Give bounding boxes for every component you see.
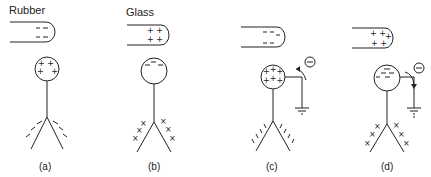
- svg-text:+ +: + +: [370, 29, 386, 38]
- panel-a: Rubber + + + + (a): [9, 4, 67, 172]
- svg-text:×: ×: [369, 130, 376, 139]
- panel-b: Glass + + + + × × × × × × (b): [126, 6, 176, 172]
- electroscope-diagram: Rubber + + + + (a) Glass + +: [0, 0, 431, 177]
- caption-a: (a): [39, 161, 51, 172]
- svg-text:+ +: + +: [147, 26, 163, 35]
- caption-b: (b): [148, 161, 160, 172]
- svg-text:×: ×: [393, 121, 400, 130]
- svg-text:×: ×: [398, 130, 405, 139]
- svg-text:+++: +++: [263, 74, 283, 85]
- electroscope-a: + + + +: [26, 57, 67, 149]
- caption-c: (c): [266, 161, 278, 172]
- svg-text:+ +: + +: [37, 67, 58, 76]
- electroscope-b: × × × × × ×: [132, 58, 176, 152]
- svg-text:×: ×: [364, 139, 371, 148]
- rod-label-rubber: Rubber: [9, 4, 45, 16]
- caption-d: (d): [381, 161, 393, 172]
- panel-d: + + + + + × × × × × ×: [352, 28, 424, 172]
- panel-c: +++ +++ (c): [241, 27, 315, 172]
- svg-text:+ +: + +: [371, 39, 387, 48]
- svg-text:×: ×: [403, 139, 410, 148]
- svg-text:×: ×: [165, 125, 172, 134]
- glass-rod: + + + +: [127, 25, 169, 45]
- rod-label-glass: Glass: [126, 6, 155, 18]
- rubber-rod-c: [241, 27, 285, 47]
- rubber-rod: [10, 22, 55, 42]
- svg-text:×: ×: [169, 134, 176, 143]
- electroscope-d: × × × × × ×: [364, 63, 424, 152]
- svg-text:×: ×: [132, 134, 139, 143]
- electroscope-c: +++ +++: [252, 57, 315, 151]
- svg-text:+ +: + +: [147, 35, 163, 44]
- glass-rod-d: + + + + +: [352, 28, 393, 48]
